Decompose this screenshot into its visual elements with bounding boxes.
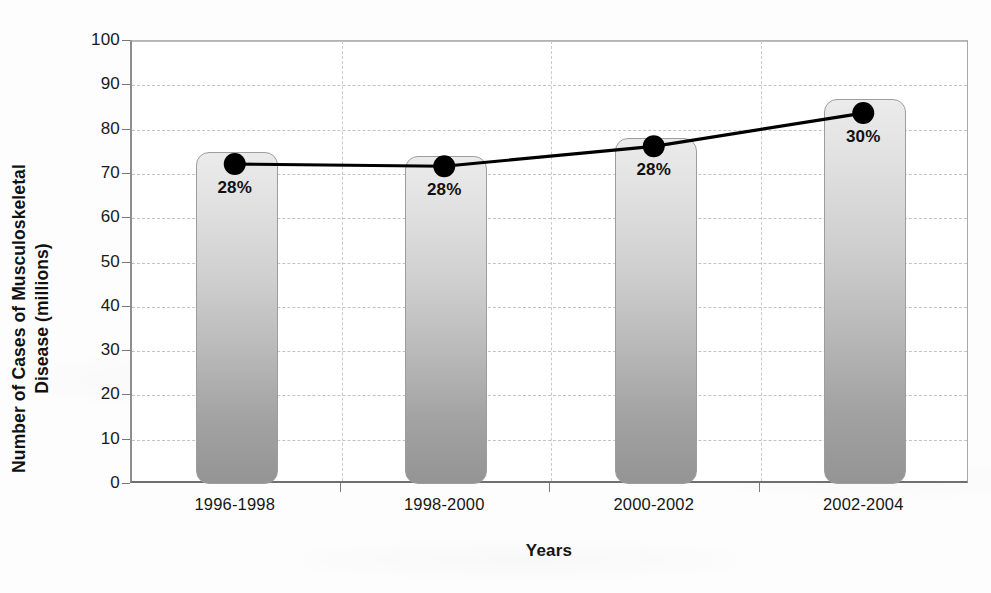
x-axis-tick-mark xyxy=(549,483,550,492)
y-axis-tick-mark xyxy=(122,84,130,85)
x-axis-tick-label: 1998-2000 xyxy=(340,495,550,514)
data-label: 30% xyxy=(822,127,904,147)
vertical-gridline xyxy=(551,41,552,481)
y-axis-tick-label: 50 xyxy=(48,252,120,272)
y-axis-tick-mark xyxy=(122,483,130,484)
gridline xyxy=(132,41,967,42)
y-axis-tick-label: 70 xyxy=(48,163,120,183)
bar xyxy=(615,138,697,484)
x-axis-title: Years xyxy=(130,541,968,561)
y-axis-tick-label: 40 xyxy=(48,296,120,316)
y-axis-tick-mark xyxy=(122,217,130,218)
y-axis-tick-mark xyxy=(122,40,130,41)
y-axis-tick-mark xyxy=(122,173,130,174)
y-axis-tick-mark xyxy=(122,129,130,130)
plot-area xyxy=(130,40,968,483)
x-axis-tick-mark xyxy=(759,483,760,492)
y-axis-tick-label: 10 xyxy=(48,429,120,449)
y-axis-tick-label: 0 xyxy=(48,473,120,493)
y-axis-tick-label: 30 xyxy=(48,340,120,360)
y-axis-tick-labels: 1009080706050403020100 xyxy=(40,40,120,483)
bar xyxy=(196,152,278,484)
y-axis-title-line-1: Number of Cases of Musculoskeletal xyxy=(8,164,31,473)
data-label: 28% xyxy=(403,180,485,200)
vertical-gridline xyxy=(761,41,762,481)
y-axis-tick-label: 90 xyxy=(48,74,120,94)
y-axis-tick-mark xyxy=(122,394,130,395)
x-axis-tick-label: 2000-2002 xyxy=(549,495,759,514)
gridline xyxy=(132,85,967,86)
y-axis-tick-label: 60 xyxy=(48,207,120,227)
y-axis-tick-mark xyxy=(122,262,130,263)
y-axis-tick-mark xyxy=(122,439,130,440)
y-axis-tick-mark xyxy=(122,350,130,351)
bar xyxy=(824,99,906,484)
x-axis-tick-mark xyxy=(340,483,341,492)
y-axis-tick-label: 20 xyxy=(48,384,120,404)
y-axis-tick-label: 80 xyxy=(48,119,120,139)
y-axis-tick-label: 100 xyxy=(48,30,120,50)
data-label: 28% xyxy=(613,160,695,180)
vertical-gridline xyxy=(342,41,343,481)
data-label: 28% xyxy=(194,178,276,198)
x-axis-tick-label: 2002-2004 xyxy=(759,495,969,514)
bar xyxy=(405,156,487,484)
x-axis-tick-label: 1996-1998 xyxy=(130,495,340,514)
y-axis-tick-mark xyxy=(122,306,130,307)
chart-figure: Number of Cases of Musculoskeletal Disea… xyxy=(0,0,991,593)
